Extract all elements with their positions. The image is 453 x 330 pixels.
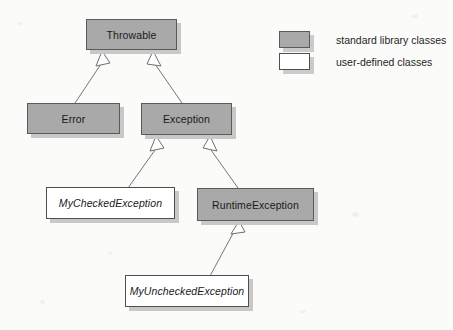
class-node-label: Exception <box>163 113 210 125</box>
class-node-mycheckedexception[interactable]: MyCheckedException <box>46 187 175 219</box>
class-node-runtimeexception[interactable]: RuntimeException <box>197 188 314 221</box>
legend-label: user-defined classes <box>336 56 432 68</box>
class-node-label: MyCheckedException <box>59 197 162 209</box>
class-node-myuncheckedexception[interactable]: MyUncheckedException <box>125 275 249 307</box>
edge-error-to-throwable <box>75 64 101 103</box>
standard-library-swatch <box>279 31 310 48</box>
class-node-label: Error <box>62 113 86 125</box>
class-node-label: Throwable <box>107 29 157 41</box>
class-node-exception[interactable]: Exception <box>141 103 232 135</box>
edge-runtime-to-exception <box>211 150 238 188</box>
class-node-error[interactable]: Error <box>27 103 120 134</box>
edge-mychecked-to-exception <box>128 150 155 188</box>
user-defined-swatch <box>279 53 310 70</box>
legend-item-user-defined: user-defined classes <box>279 53 432 70</box>
class-node-label: MyUncheckedException <box>130 285 245 297</box>
legend-label: standard library classes <box>336 34 446 46</box>
class-node-throwable[interactable]: Throwable <box>86 19 177 50</box>
edge-exception-to-throwable <box>155 64 182 103</box>
legend-item-standard-library: standard library classes <box>279 31 446 48</box>
class-hierarchy-diagram: Throwable Error Exception MyCheckedExcep… <box>0 0 453 330</box>
class-node-label: RuntimeException <box>212 199 299 211</box>
